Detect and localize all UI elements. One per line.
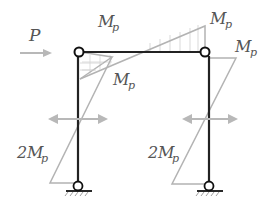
- label-right-column-base: 2 M p: [147, 143, 179, 165]
- svg-text:p: p: [250, 46, 257, 59]
- svg-text:p: p: [128, 79, 135, 92]
- svg-text:2: 2: [16, 143, 27, 162]
- right-column-moment-diagram: [172, 58, 236, 184]
- label-left-column-base: 2 M p: [16, 143, 48, 165]
- load-label: P: [28, 25, 41, 45]
- label-left-corner-inner: M p: [112, 70, 135, 92]
- left-top-hinge-icon: [75, 48, 84, 57]
- svg-text:p: p: [172, 152, 179, 165]
- svg-text:2: 2: [147, 143, 158, 162]
- label-right-column-top: M p: [234, 37, 257, 59]
- label-beam-right-top: M p: [209, 9, 232, 31]
- right-top-hinge-icon: [201, 48, 210, 57]
- svg-text:p: p: [225, 18, 232, 31]
- load-arrow-icon: [20, 49, 52, 57]
- svg-text:p: p: [112, 21, 119, 34]
- frame-moment-diagram: P M p M p M p M p 2 M p 2 M p: [0, 0, 267, 220]
- svg-text:p: p: [41, 152, 48, 165]
- label-beam-left-top: M p: [97, 12, 119, 34]
